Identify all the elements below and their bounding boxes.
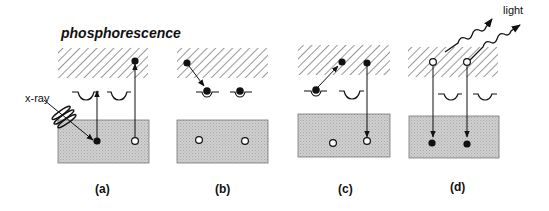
valence-band bbox=[409, 116, 499, 158]
hole-circle bbox=[430, 59, 437, 66]
diagram-title: phosphorescence bbox=[60, 25, 181, 41]
hole-circle bbox=[242, 138, 249, 145]
hole-circle bbox=[132, 138, 139, 145]
electron-dot bbox=[93, 137, 100, 144]
trapped-electron-dot bbox=[203, 87, 211, 95]
trapped-electron-dot bbox=[236, 87, 244, 95]
valence-band bbox=[298, 114, 390, 157]
panel-d: light (d) bbox=[408, 4, 523, 194]
electron-dot bbox=[428, 139, 435, 146]
phosphorescence-diagram: phosphorescence x-ray (a) bbox=[0, 0, 549, 211]
hole-circle bbox=[196, 137, 203, 144]
valence-band bbox=[177, 120, 268, 163]
electron-dot bbox=[463, 140, 470, 147]
trap-icon bbox=[438, 94, 462, 100]
electron-dot bbox=[183, 59, 190, 66]
electron-dot bbox=[338, 58, 345, 65]
caption-a: (a) bbox=[95, 182, 110, 196]
electron-dot bbox=[363, 59, 370, 66]
hole-circle bbox=[464, 59, 471, 66]
trap-icon bbox=[339, 91, 364, 99]
trap-icon bbox=[72, 92, 99, 100]
panel-c: (c) bbox=[298, 45, 390, 196]
xray-label: x-ray bbox=[25, 92, 50, 104]
conduction-band bbox=[408, 47, 498, 77]
caption-b: (b) bbox=[215, 182, 230, 196]
panel-a: x-ray (a) bbox=[25, 48, 149, 196]
trap-icon bbox=[473, 94, 497, 100]
caption-c: (c) bbox=[338, 182, 353, 196]
light-label: light bbox=[503, 4, 523, 16]
hole-circle bbox=[364, 138, 371, 145]
electron-dot bbox=[131, 57, 138, 64]
panel-b: (b) bbox=[177, 48, 268, 196]
caption-d: (d) bbox=[450, 180, 465, 194]
conduction-band bbox=[177, 48, 268, 78]
trap-icon bbox=[107, 92, 131, 100]
trapped-electron-dot bbox=[312, 86, 320, 94]
hole-circle bbox=[330, 140, 337, 147]
